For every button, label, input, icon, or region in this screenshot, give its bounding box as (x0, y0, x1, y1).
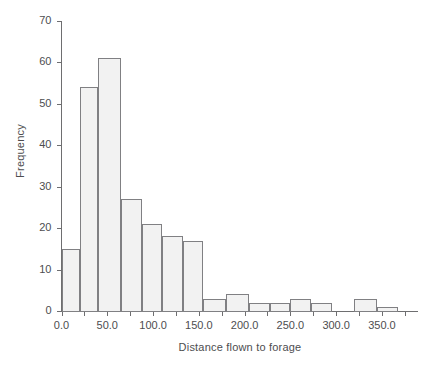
histogram-bar-6 (162, 236, 183, 312)
x-tick-350 (382, 312, 383, 316)
histogram-bar-3 (98, 58, 121, 312)
histogram-bar-4 (121, 199, 142, 312)
y-tick-label-30: 30 (24, 181, 52, 192)
histogram-bar-10 (249, 303, 270, 312)
x-tick-300 (336, 312, 337, 316)
x-tick-325 (359, 312, 360, 316)
y-tick-label-20: 20 (24, 222, 52, 233)
x-tick-50 (107, 312, 108, 316)
x-tick-200 (245, 312, 246, 316)
y-tick-label-50: 50 (24, 98, 52, 109)
y-tick-label-10: 10 (24, 264, 52, 275)
histogram-bar-9 (226, 294, 249, 312)
y-axis-title: Frequency (14, 91, 26, 211)
histogram-figure: Frequency Distance flown to forage 01020… (0, 0, 434, 366)
y-tick-label-70: 70 (24, 15, 52, 26)
histogram-bar-11 (270, 303, 290, 312)
histogram-bar-15 (377, 307, 398, 312)
x-tick-125 (176, 312, 177, 316)
y-tick-label-60: 60 (24, 56, 52, 67)
histogram-bar-8 (203, 299, 226, 312)
y-tick-50 (57, 104, 61, 105)
x-tick-75 (130, 312, 131, 316)
y-tick-label-0: 0 (24, 305, 52, 316)
y-tick-60 (57, 62, 61, 63)
x-tick-225 (267, 312, 268, 316)
x-tick-275 (313, 312, 314, 316)
x-tick-375 (405, 312, 406, 316)
y-tick-40 (57, 145, 61, 146)
x-tick-label-350: 350.0 (352, 320, 412, 331)
histogram-bar-13 (311, 303, 332, 312)
histogram-bar-14 (354, 299, 377, 312)
x-tick-175 (222, 312, 223, 316)
x-axis-title: Distance flown to forage (60, 341, 420, 353)
histogram-bar-7 (183, 241, 203, 312)
y-tick-0 (57, 311, 61, 312)
histogram-bar-5 (142, 224, 162, 312)
y-tick-10 (57, 270, 61, 271)
x-tick-250 (290, 312, 291, 316)
x-tick-25 (84, 312, 85, 316)
x-tick-150 (199, 312, 200, 316)
x-tick-100 (153, 312, 154, 316)
y-tick-20 (57, 228, 61, 229)
histogram-bar-12 (290, 299, 310, 312)
histogram-bar-1 (62, 249, 80, 312)
histogram-bar-2 (80, 87, 98, 312)
y-tick-70 (57, 21, 61, 22)
y-tick-label-40: 40 (24, 139, 52, 150)
x-tick-0 (62, 312, 63, 316)
y-tick-30 (57, 187, 61, 188)
